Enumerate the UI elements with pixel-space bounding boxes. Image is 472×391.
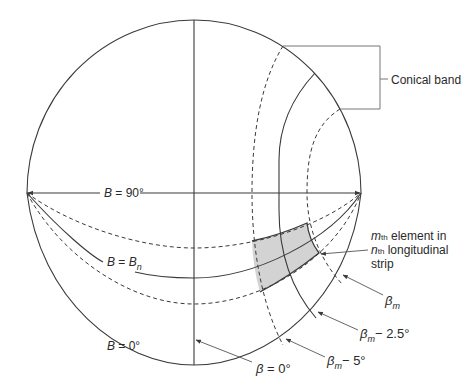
label-element-2: nth longitudinal [371, 243, 448, 257]
conical-band-bracket [283, 46, 388, 109]
leader-beta-m-5 [286, 339, 325, 357]
diagram-canvas: Conical band B = 90° B = Bn B = 0° mth e… [0, 0, 472, 391]
leader-element [321, 250, 368, 254]
leader-beta-m [343, 275, 383, 295]
label-element-3: strip [371, 257, 394, 271]
label-beta-m-5: βm− 5° [326, 353, 366, 371]
label-beta-0: β = 0° [255, 361, 291, 376]
leader-beta-m-2-5 [318, 312, 358, 330]
meridian-beta-m-minus-5 [252, 46, 283, 345]
label-b-n: B = Bn [107, 255, 142, 272]
label-element: mth element in [371, 229, 446, 243]
label-beta-m-2-5: βm− 2.5° [359, 326, 409, 344]
leader-beta-0 [196, 340, 252, 362]
label-b-90: B = 90° [104, 186, 144, 200]
label-beta-m: βm [384, 293, 400, 311]
label-b-0: B = 0° [107, 339, 140, 353]
label-conical-band: Conical band [391, 73, 461, 87]
meridian-beta-m-minus-2-5 [279, 73, 316, 318]
